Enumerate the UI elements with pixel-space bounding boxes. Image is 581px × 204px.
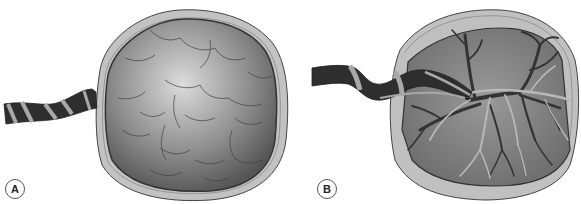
panel-label-a: A — [5, 179, 25, 199]
panel-b-fetal-surface: B — [290, 0, 581, 204]
cotyledon-disc — [105, 19, 276, 191]
panel-a-maternal-surface: A — [0, 0, 290, 204]
umbilical-cord-a — [4, 89, 97, 124]
chorionic-plate — [402, 28, 570, 186]
panel-label-b: B — [317, 179, 337, 199]
placenta-maternal-illustration — [0, 0, 290, 204]
placenta-fetal-illustration — [290, 0, 581, 204]
